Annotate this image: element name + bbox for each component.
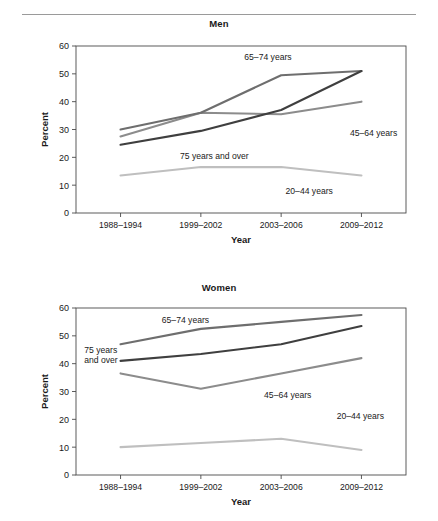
panel-women: Women 01020304050601988–19941999–2002200… bbox=[0, 282, 438, 520]
y-axis-tick-label: 10 bbox=[59, 443, 69, 453]
y-axis-tick-label: 30 bbox=[59, 387, 69, 397]
series-annotation-label: 75 years and over bbox=[180, 151, 249, 161]
x-axis-tick-label: 1999–2002 bbox=[179, 482, 222, 492]
plot-area-men: 01020304050601988–19941999–20022003–2006… bbox=[0, 18, 438, 258]
y-axis-tick-label: 0 bbox=[64, 470, 69, 480]
top-divider-rule bbox=[22, 14, 416, 15]
series-line bbox=[121, 439, 362, 450]
y-axis-tick-label: 50 bbox=[59, 331, 69, 341]
line-chart-men: 01020304050601988–19941999–20022003–2006… bbox=[0, 18, 438, 258]
x-axis-tick-label: 1988–1994 bbox=[99, 220, 142, 230]
series-annotation-label: 75 yearsand over bbox=[84, 345, 118, 365]
y-axis-title: Percent bbox=[39, 111, 50, 147]
y-axis-tick-label: 50 bbox=[59, 69, 69, 79]
x-axis-tick-label: 2003–2006 bbox=[260, 220, 303, 230]
y-axis-title: Percent bbox=[39, 373, 50, 409]
figure-root: Men 01020304050601988–19941999–20022003–… bbox=[0, 0, 438, 521]
series-line bbox=[121, 358, 362, 389]
series-annotation-label: 45–64 years bbox=[264, 390, 311, 400]
plot-area-women: 01020304050601988–19941999–20022003–2006… bbox=[0, 282, 438, 520]
y-axis-tick-label: 40 bbox=[59, 359, 69, 369]
y-axis-tick-label: 40 bbox=[59, 97, 69, 107]
series-annotation-label: 65–74 years bbox=[162, 315, 209, 325]
series-annotation-label: 45–64 years bbox=[350, 128, 397, 138]
panel-men: Men 01020304050601988–19941999–20022003–… bbox=[0, 18, 438, 258]
series-line bbox=[121, 315, 362, 344]
x-axis-title: Year bbox=[231, 234, 251, 245]
y-axis-tick-label: 20 bbox=[59, 153, 69, 163]
series-annotation-label: 20–44 years bbox=[337, 411, 384, 421]
y-axis-tick-label: 20 bbox=[59, 415, 69, 425]
y-axis-tick-label: 30 bbox=[59, 125, 69, 135]
series-line bbox=[121, 326, 362, 361]
line-chart-women: 01020304050601988–19941999–20022003–2006… bbox=[0, 282, 438, 520]
y-axis-tick-label: 0 bbox=[64, 208, 69, 218]
x-axis-tick-label: 1999–2002 bbox=[179, 220, 222, 230]
y-axis-tick-label: 60 bbox=[59, 41, 69, 51]
x-axis-tick-label: 1988–1994 bbox=[99, 482, 142, 492]
x-axis-tick-label: 2009–2012 bbox=[340, 482, 383, 492]
series-annotation-label: 65–74 years bbox=[244, 52, 291, 62]
y-axis-tick-label: 60 bbox=[59, 303, 69, 313]
series-line bbox=[121, 102, 362, 137]
y-axis-tick-label: 10 bbox=[59, 181, 69, 191]
series-annotation-label: 20–44 years bbox=[286, 186, 333, 196]
x-axis-tick-label: 2009–2012 bbox=[340, 220, 383, 230]
series-line bbox=[121, 167, 362, 175]
x-axis-tick-label: 2003–2006 bbox=[260, 482, 303, 492]
x-axis-title: Year bbox=[231, 496, 251, 507]
